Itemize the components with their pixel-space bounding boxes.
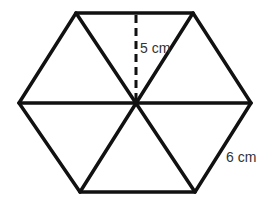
hexagon-diagram: 5 cm 6 cm bbox=[0, 0, 272, 208]
apothem-label: 5 cm bbox=[140, 40, 170, 56]
side-length-label: 6 cm bbox=[226, 149, 256, 165]
